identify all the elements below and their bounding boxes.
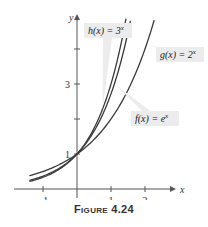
axes: xy−11213 — [14, 12, 185, 200]
curve-label: h(x) = 3x — [88, 24, 125, 37]
x-tick-label: −1 — [38, 195, 49, 200]
exponential-functions-chart: xy−11213 h(x) = 3xg(x) = 2xf(x) = ex — [0, 0, 208, 200]
label-pointer — [103, 31, 114, 110]
y-axis-arrow-icon — [74, 14, 80, 20]
curve-label: g(x) = 2x — [160, 48, 197, 61]
x-axis-label: x — [179, 184, 185, 195]
x-axis-arrow-icon — [170, 186, 176, 192]
y-axis-label: y — [68, 12, 74, 23]
curve-h — [29, 19, 126, 182]
curve-label: f(x) = ex — [135, 112, 169, 125]
x-tick-label: 2 — [143, 195, 148, 200]
x-tick-label: 1 — [109, 195, 114, 200]
curve-f — [29, 21, 130, 181]
figure-caption: Figure 4.24 — [0, 203, 208, 215]
y-tick-label: 3 — [65, 79, 70, 90]
curve-g — [29, 20, 154, 176]
